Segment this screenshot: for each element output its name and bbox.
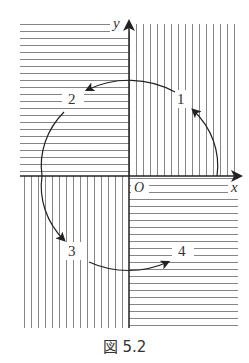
quadrant-label-1: 1 (177, 91, 185, 107)
figure-caption: 図 5.2 (0, 335, 249, 356)
x-axis-label: x (230, 179, 238, 195)
origin-label: O (134, 180, 144, 195)
quadrant-label-2: 2 (68, 91, 76, 107)
quadrant-diagram: y x O 1 2 3 4 (0, 0, 249, 363)
quadrant-label-4: 4 (178, 243, 186, 259)
y-axis-label: y (111, 15, 120, 31)
quadrant-label-3: 3 (68, 243, 76, 259)
